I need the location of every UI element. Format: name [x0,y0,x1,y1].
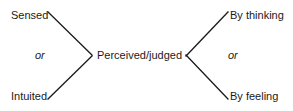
edge-center-to-bythinking [186,12,228,56]
node-label-sensed: Sensed [11,9,48,21]
connector-label-or-right: or [228,49,238,61]
connector-label-or-left: or [35,49,45,61]
node-label-by-feeling: By feeling [230,90,278,102]
edge-intuited-to-center [48,56,92,99]
node-label-by-thinking: By thinking [230,9,284,21]
edge-sensed-to-center [48,12,92,55]
edge-center-to-byfeeling [186,55,228,99]
diagram-canvas: Sensed Intuited Perceived/judged By thin… [0,0,293,111]
node-label-perceived-judged: Perceived/judged [97,49,182,61]
node-label-intuited: Intuited [11,90,47,102]
